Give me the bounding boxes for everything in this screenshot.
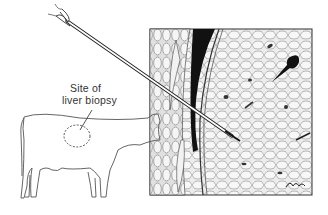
- tissue-cross-section: [150, 29, 312, 195]
- site-label: Site of liver biopsy: [62, 82, 117, 106]
- label-line-2: liver biopsy: [62, 94, 117, 106]
- biopsy-illustration: [0, 0, 328, 215]
- label-line-1: Site of: [62, 82, 117, 94]
- cow-outline: [21, 110, 160, 198]
